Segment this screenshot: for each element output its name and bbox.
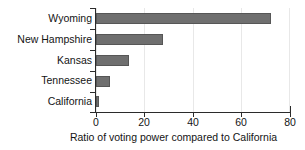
y-tick [90, 29, 96, 30]
category-label-tennessee: Tennessee [41, 75, 92, 86]
bar-kansas [96, 55, 129, 66]
bar-row [96, 96, 290, 107]
bar-row [96, 55, 290, 66]
bar-california [96, 96, 99, 107]
plot-area [96, 8, 290, 112]
x-tick-label-20: 20 [129, 116, 159, 128]
y-tick [90, 50, 96, 51]
category-label-kansas: Kansas [57, 55, 92, 66]
y-axis-line [95, 8, 96, 113]
x-tick-label-80: 80 [275, 116, 305, 128]
bar-row [96, 34, 290, 45]
bar-chart: Wyoming New Hampshire Kansas Tennessee C… [0, 0, 305, 150]
category-label-new-hampshire: New Hampshire [17, 34, 92, 45]
bar-row [96, 76, 290, 87]
x-axis-title: Ratio of voting power compared to Califo… [0, 131, 305, 143]
x-tick-label-40: 40 [178, 116, 208, 128]
y-tick [90, 71, 96, 72]
bar-row [96, 13, 290, 24]
x-tick-label-0: 0 [81, 116, 111, 128]
bar-wyoming [96, 13, 271, 24]
category-label-california: California [48, 96, 92, 107]
category-label-wyoming: Wyoming [48, 13, 92, 24]
x-tick-label-60: 60 [226, 116, 256, 128]
y-tick [90, 92, 96, 93]
bar-tennessee [96, 76, 110, 87]
bar-new-hampshire [96, 34, 163, 45]
y-tick [90, 8, 96, 9]
